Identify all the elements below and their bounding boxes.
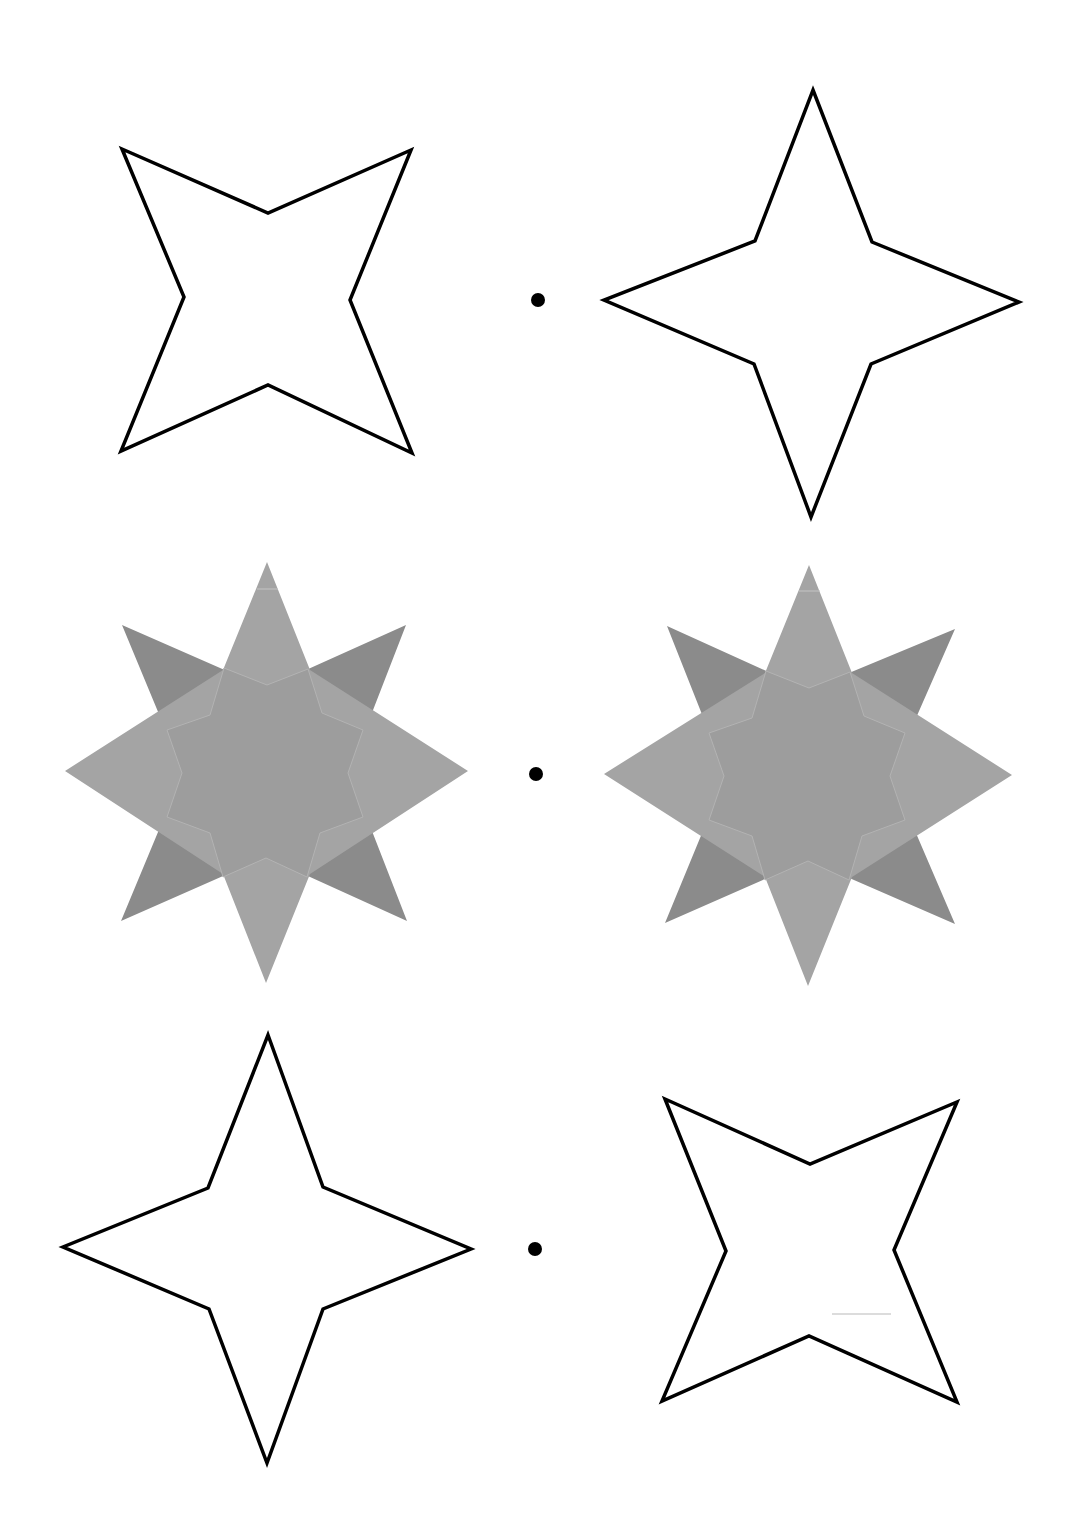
dot-row-3	[528, 1242, 542, 1256]
plus-star-outline-top-right	[604, 90, 1019, 517]
plus-star-outline-bottom-left	[63, 1035, 471, 1463]
dot-row-2	[529, 767, 543, 781]
worksheet-canvas	[0, 0, 1079, 1537]
x-star-outline-top-left	[121, 149, 412, 453]
eight-point-star-right	[604, 565, 1012, 986]
eight-point-star-left	[65, 562, 468, 983]
x-star-outline-bottom-right	[662, 1099, 957, 1402]
dot-row-1	[531, 293, 545, 307]
